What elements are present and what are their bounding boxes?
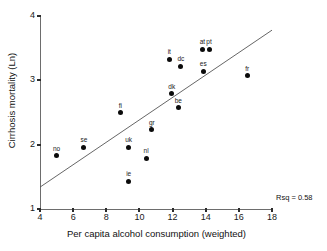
scatter-point[interactable] (201, 69, 206, 74)
scatter-point-label: dk (168, 83, 175, 90)
scatter-point[interactable] (167, 57, 172, 62)
scatter-point-label: it (168, 48, 171, 55)
scatter-point[interactable] (118, 110, 123, 115)
scatter-point-label: be (175, 97, 182, 104)
scatter-point-label: fr (245, 65, 249, 72)
scatter-point[interactable] (200, 47, 205, 52)
scatter-point-label: gr (149, 119, 155, 126)
scatter-point[interactable] (144, 156, 149, 161)
scatter-point[interactable] (126, 179, 131, 184)
scatter-point-label: ie (126, 170, 131, 177)
scatter-point-label: uk (125, 136, 132, 143)
scatter-point-label: se (80, 136, 87, 143)
scatter-point-label: no (53, 145, 60, 152)
scatter-point-label: fi (119, 102, 122, 109)
scatter-point-label: nl (144, 147, 149, 154)
scatter-point[interactable] (207, 47, 212, 52)
scatter-point-label: at (200, 38, 205, 45)
scatter-point-label: dc (177, 55, 184, 62)
trendline (0, 0, 327, 251)
scatter-point-label: es (200, 60, 207, 67)
scatter-point[interactable] (126, 145, 131, 150)
chart-page: 1234 4681012141618 Cirrhosis mortality (… (0, 0, 327, 251)
scatter-point-label: pt (206, 38, 211, 45)
